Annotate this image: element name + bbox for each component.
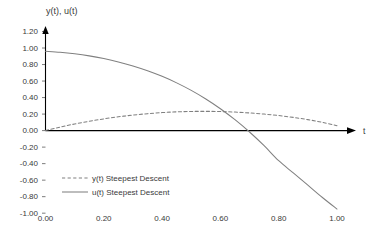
y-tick-label: 0.20 xyxy=(22,110,38,119)
chart-plot: y(t), u(t) 1.201.000.800.600.400.200.00-… xyxy=(0,0,376,236)
y-tick-label: -0.40 xyxy=(20,159,39,168)
x-tick-label: 0.80 xyxy=(271,214,287,223)
y-axis-title: y(t), u(t) xyxy=(46,6,78,16)
legend-label: y(t) Steepest Descent xyxy=(92,174,170,183)
y-tick-label: 0.40 xyxy=(22,93,38,102)
y-tick-label: -1.00 xyxy=(20,209,39,218)
chart-background xyxy=(0,0,376,236)
chart-container: y(t), u(t) 1.201.000.800.600.400.200.00-… xyxy=(0,0,376,236)
x-tick-label: 0.60 xyxy=(213,214,229,223)
x-tick-label: 0.00 xyxy=(38,214,54,223)
x-tick-label: 1.00 xyxy=(329,214,345,223)
y-tick-label: -0.60 xyxy=(20,176,39,185)
y-tick-label: 0.60 xyxy=(22,77,38,86)
y-tick-label: -0.20 xyxy=(20,143,39,152)
y-tick-label: -0.80 xyxy=(20,192,39,201)
y-tick-label: 0.80 xyxy=(22,60,38,69)
y-tick-label: 0.00 xyxy=(22,126,38,135)
y-tick-label: 1.00 xyxy=(22,44,38,53)
x-tick-label: 0.20 xyxy=(96,214,112,223)
legend-label: u(t) Steepest Descent xyxy=(92,188,170,197)
y-tick-label: 1.20 xyxy=(22,27,38,36)
x-tick-label: 0.40 xyxy=(154,214,170,223)
